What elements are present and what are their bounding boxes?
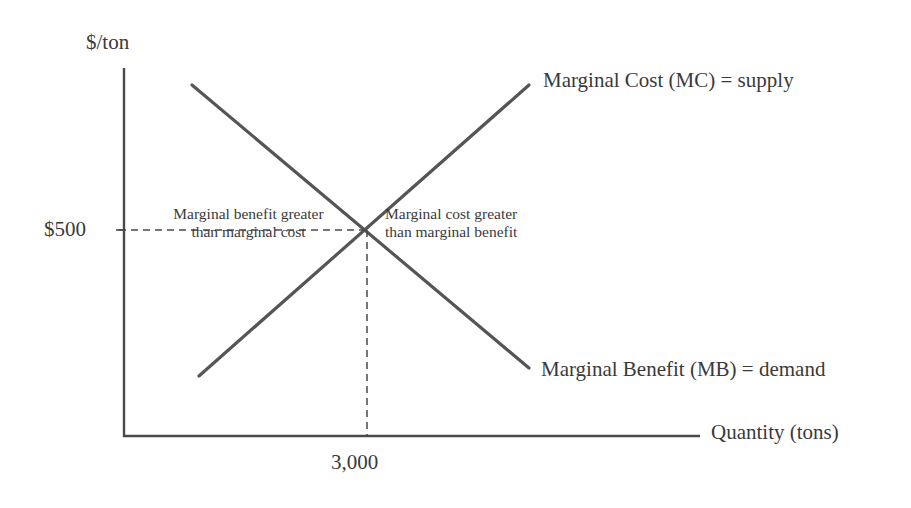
annotation-right-line-1: Marginal cost greater bbox=[385, 205, 615, 223]
annotation-left: Marginal benefit greater than marginal c… bbox=[141, 205, 356, 242]
annotation-left-line-1: Marginal benefit greater bbox=[141, 205, 356, 223]
marginal-cost-curve-label: Marginal Cost (MC) = supply bbox=[543, 68, 794, 93]
x-axis-tick-label-quantity: 3,000 bbox=[331, 450, 378, 475]
annotation-right-line-2: than marginal benefit bbox=[385, 223, 615, 241]
y-axis-tick-label-price: $500 bbox=[44, 217, 86, 242]
annotation-left-line-2: than marginal cost bbox=[141, 223, 356, 241]
annotation-right: Marginal cost greater than marginal bene… bbox=[385, 205, 615, 242]
marginal-benefit-curve-label: Marginal Benefit (MB) = demand bbox=[541, 357, 825, 382]
y-axis-title: $/ton bbox=[86, 30, 129, 55]
x-axis-title: Quantity (tons) bbox=[711, 420, 839, 445]
supply-demand-figure: $/ton Quantity (tons) $500 3,000 Margina… bbox=[0, 0, 911, 508]
